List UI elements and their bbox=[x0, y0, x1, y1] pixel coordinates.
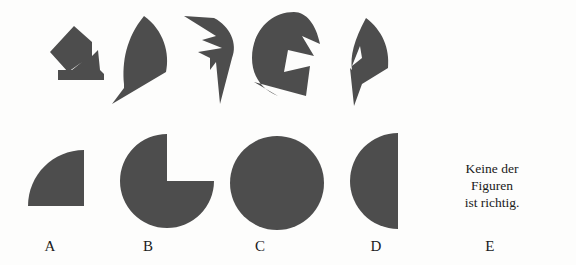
crescent-blade-piece bbox=[112, 14, 172, 106]
option-e-text-block[interactable]: Keine der Figuren ist richtig. bbox=[440, 160, 544, 211]
rotated-square-with-notch-piece bbox=[48, 22, 110, 84]
notched-ring-piece bbox=[248, 10, 332, 110]
option-c-full-circle[interactable] bbox=[228, 134, 326, 232]
option-b-circle-with-quarter-removed[interactable] bbox=[118, 132, 216, 230]
option-e-line-3: ist richtig. bbox=[440, 194, 544, 211]
option-label-c: C bbox=[240, 238, 280, 255]
option-label-d: D bbox=[356, 238, 396, 255]
option-label-e: E bbox=[470, 238, 510, 255]
option-a-quarter-circle[interactable] bbox=[26, 148, 86, 208]
option-e-line-2: Figuren bbox=[440, 177, 544, 194]
double-wedge-piece bbox=[348, 16, 396, 108]
option-e-line-1: Keine der bbox=[440, 160, 544, 177]
option-label-b: B bbox=[128, 238, 168, 255]
option-d-half-circle[interactable] bbox=[348, 131, 402, 231]
test-item-page: Keine der Figuren ist richtig. A B C D E bbox=[0, 0, 576, 265]
zigzag-arrow-piece bbox=[176, 14, 242, 106]
option-label-a: A bbox=[30, 238, 70, 255]
